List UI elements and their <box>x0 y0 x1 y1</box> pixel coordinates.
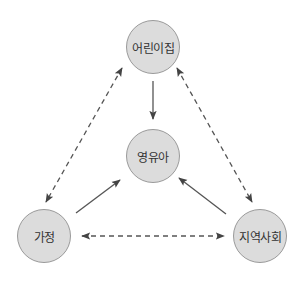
node-community: 지역사회 <box>233 209 287 263</box>
node-daycare: 어린이집 <box>126 20 180 74</box>
node-child: 영유아 <box>126 129 180 183</box>
node-label: 어린이집 <box>132 39 174 56</box>
arrow-daycare-family <box>46 68 122 202</box>
arrow-family-to-child <box>76 180 120 213</box>
node-label: 영유아 <box>137 148 169 165</box>
arrow-community-to-child <box>179 178 226 214</box>
node-family: 가정 <box>17 209 71 263</box>
node-label: 지역사회 <box>239 228 281 245</box>
relationship-diagram: 어린이집 영유아 가정 지역사회 <box>0 0 307 281</box>
node-label: 가정 <box>34 228 55 245</box>
arrow-daycare-community <box>177 68 252 202</box>
